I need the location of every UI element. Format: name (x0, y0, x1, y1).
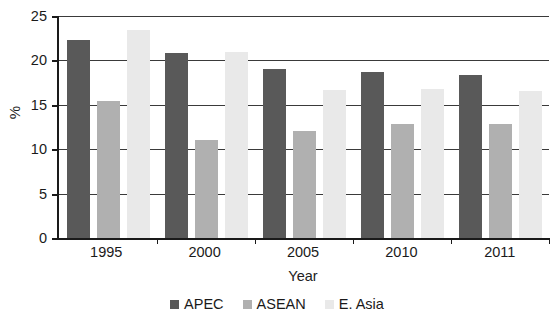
y-axis-tick (52, 105, 59, 107)
bar-apec-2000 (165, 53, 188, 238)
x-axis-tick-label: 2000 (155, 244, 253, 266)
bar-asean-2011 (489, 124, 512, 238)
x-axis-group-tick (549, 238, 550, 244)
bar-chart: % 0510152025 19952000200520102011 Year A… (0, 0, 554, 324)
bar-e-asia-2011 (519, 91, 542, 238)
bar-asean-1995 (97, 101, 120, 238)
bar-e-asia-2000 (225, 52, 248, 238)
bar-asean-2000 (195, 140, 218, 238)
x-axis-title: Year (57, 268, 549, 284)
y-axis-tick-label: 15 (19, 98, 47, 113)
legend-item-e-asia[interactable]: E. Asia (325, 297, 384, 312)
bar-apec-2011 (459, 75, 482, 238)
bar-apec-1995 (67, 40, 90, 238)
y-axis-tick-label: 25 (19, 9, 47, 24)
x-axis-tick-label: 2011 (451, 244, 549, 266)
bar-group (59, 16, 157, 238)
legend-label: APEC (184, 297, 224, 312)
bar-e-asia-2005 (323, 90, 346, 238)
bar-group-bars (451, 16, 549, 238)
x-axis-tick-label: 2005 (254, 244, 352, 266)
y-axis-tick (52, 149, 59, 151)
y-axis-tick (52, 60, 59, 62)
bar-group-bars (353, 16, 451, 238)
legend-swatch-icon (243, 300, 252, 309)
gridline (59, 238, 549, 240)
bar-group (451, 16, 549, 238)
y-axis-tick (52, 238, 59, 240)
bar-e-asia-2010 (421, 89, 444, 238)
y-axis-tick-label: 0 (19, 231, 47, 246)
legend-item-apec[interactable]: APEC (170, 297, 224, 312)
bar-asean-2010 (391, 124, 414, 238)
y-axis-tick-label: 5 (19, 186, 47, 201)
x-axis-tick-label: 2010 (352, 244, 450, 266)
bar-group-bars (157, 16, 255, 238)
y-axis-tick (52, 194, 59, 196)
bar-groups (59, 16, 549, 238)
bar-e-asia-1995 (127, 30, 150, 238)
bar-group (353, 16, 451, 238)
legend-swatch-icon (170, 300, 179, 309)
bar-group (157, 16, 255, 238)
bar-apec-2005 (263, 69, 286, 238)
y-axis-tick (52, 16, 59, 18)
legend: APECASEANE. Asia (0, 297, 554, 312)
bar-apec-2010 (361, 72, 384, 238)
y-axis-tick-label: 10 (19, 142, 47, 157)
plot-area (57, 16, 549, 238)
y-axis-tick-labels: 0510152025 (17, 16, 47, 238)
bar-group-bars (59, 16, 157, 238)
bar-asean-2005 (293, 131, 316, 238)
y-axis-tick-label: 20 (19, 53, 47, 68)
legend-label: E. Asia (339, 297, 384, 312)
legend-label: ASEAN (257, 297, 306, 312)
bar-group-bars (255, 16, 353, 238)
bar-group (255, 16, 353, 238)
legend-item-asean[interactable]: ASEAN (243, 297, 306, 312)
x-axis-tick-label: 1995 (57, 244, 155, 266)
x-axis-tick-labels: 19952000200520102011 (57, 244, 549, 266)
legend-swatch-icon (325, 300, 334, 309)
